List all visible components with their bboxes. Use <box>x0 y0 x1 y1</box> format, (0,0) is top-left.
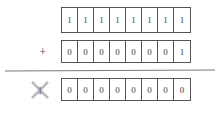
bit-cell: 1 <box>94 8 110 32</box>
bit-cell: 0 <box>158 41 174 62</box>
bit-cell: 0 <box>94 79 110 100</box>
bit-cell: 1 <box>174 8 190 32</box>
bit-cell: 0 <box>110 79 126 100</box>
carry-out-discarded: 1 <box>30 80 50 100</box>
carry-out-bit: 1 <box>37 84 43 96</box>
bit-cell: 1 <box>62 8 78 32</box>
bit-cell: 0 <box>94 41 110 62</box>
bit-cell: 1 <box>110 8 126 32</box>
bit-cell: 0 <box>110 41 126 62</box>
bit-cell: 0 <box>62 79 78 100</box>
bit-cell: 1 <box>78 8 94 32</box>
operand-a-register: 1 1 1 1 1 1 1 1 <box>61 7 191 33</box>
bit-cell: 0 <box>62 41 78 62</box>
bit-cell: 0 <box>158 79 174 100</box>
bit-cell: 0 <box>174 79 190 100</box>
operand-b-register: 0 0 0 0 0 0 0 1 <box>61 40 191 63</box>
result-register: 0 0 0 0 0 0 0 0 <box>61 78 191 101</box>
bit-cell: 0 <box>142 41 158 62</box>
bit-cell: 1 <box>174 41 190 62</box>
bit-cell: 1 <box>126 8 142 32</box>
sum-divider-line <box>5 69 215 71</box>
bit-cell: 0 <box>78 79 94 100</box>
bit-cell: 0 <box>126 79 142 100</box>
plus-operator: + <box>39 44 46 60</box>
bit-cell: 0 <box>78 41 94 62</box>
bit-cell: 0 <box>142 79 158 100</box>
cross-icon: 1 <box>30 80 50 100</box>
bit-cell: 1 <box>142 8 158 32</box>
bit-cell: 1 <box>158 8 174 32</box>
bit-cell: 0 <box>126 41 142 62</box>
